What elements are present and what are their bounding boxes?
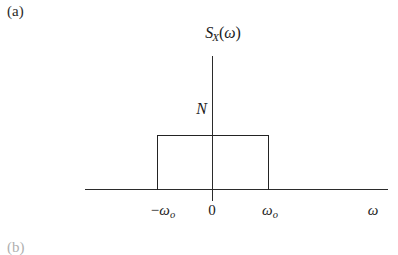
x-tick-label-positive-cutoff: ωo (251, 203, 289, 221)
x-axis-label: ω (358, 203, 388, 218)
y-axis-title: SX(ω) (180, 25, 266, 43)
panel-label-b-clipped: (b) (7, 240, 25, 255)
omega-subscript: o (273, 209, 278, 220)
x-tick-label-origin: 0 (199, 203, 225, 218)
omega-subscript: o (170, 209, 175, 220)
panel-label-a: (a) (7, 4, 24, 19)
x-tick-label-negative-cutoff: −ωo (140, 203, 186, 221)
y-axis-title-argument: ω (224, 24, 235, 41)
y-axis-title-subscript: X (212, 31, 219, 43)
amplitude-level-label: N (185, 101, 207, 117)
omega-symbol: ω (159, 202, 170, 218)
psd-rectangle-plot (157, 135, 269, 190)
y-axis-title-paren-close: ) (236, 24, 241, 41)
omega-symbol: ω (262, 202, 273, 218)
